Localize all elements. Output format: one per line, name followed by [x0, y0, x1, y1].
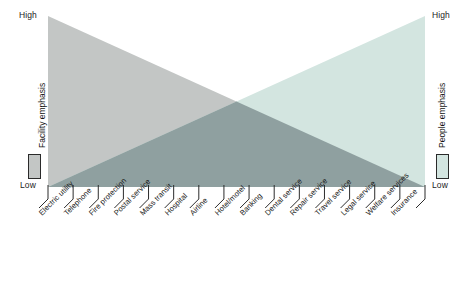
category-tick	[416, 185, 425, 208]
right-axis-high-label: High	[432, 10, 450, 20]
left-axis-high-label: High	[19, 10, 37, 20]
figure-canvas: High Low High Low Facility emphasis Peop…	[0, 0, 472, 281]
left-axis-title: Facility emphasis	[37, 83, 47, 148]
facility-emphasis-swatch	[28, 154, 41, 179]
people-emphasis-swatch	[436, 154, 449, 179]
triangle-continuum-graphic	[48, 16, 425, 187]
right-axis-title: People emphasis	[437, 83, 447, 148]
plot-area	[48, 16, 425, 187]
category-axis: Electric utilityTelephoneFire protection…	[0, 185, 472, 281]
